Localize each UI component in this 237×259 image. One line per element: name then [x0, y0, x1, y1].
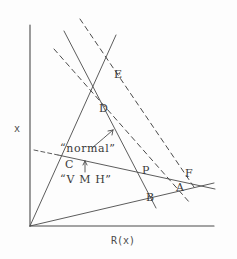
vmh-line-dashed-extension — [34, 150, 58, 155]
point-label-C: C — [65, 159, 74, 170]
point-label-D: D — [99, 103, 108, 114]
figure-canvas: x R(x) “normal” “V M H” E D C P F A B — [0, 0, 237, 259]
dashed-line-right — [80, 19, 196, 190]
point-label-F: F — [185, 168, 193, 179]
point-label-B: B — [146, 192, 154, 203]
annotation-vmh: “V M H” — [60, 174, 112, 185]
diagram-svg — [0, 0, 237, 259]
annotation-normal: “normal” — [60, 143, 116, 154]
point-label-A: A — [176, 182, 184, 193]
point-label-E: E — [114, 69, 122, 80]
steep-ray-from-origin — [30, 35, 116, 226]
shallow-ray-from-origin — [30, 183, 214, 226]
point-label-P: P — [142, 165, 150, 176]
y-axis-label: x — [14, 124, 20, 134]
x-axis-label: R(x) — [111, 236, 135, 246]
